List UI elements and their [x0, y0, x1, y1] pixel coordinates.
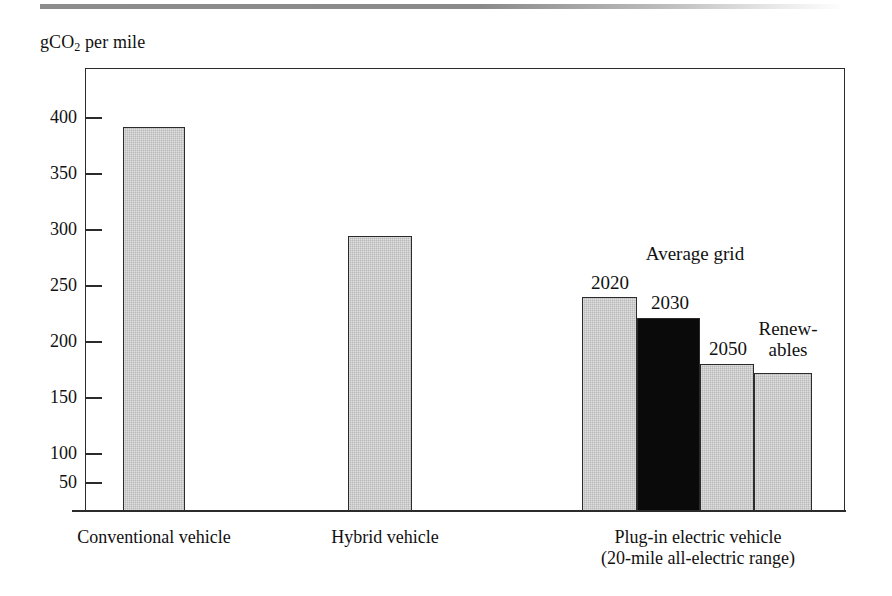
- annotation-renewables-line2: ables: [768, 339, 807, 360]
- chart-figure: gCO2 per mile 400 350 300 250 200 150 10…: [0, 0, 892, 596]
- y-tick-label-400: 400: [25, 108, 77, 126]
- x-label-hybrid-vehicle: Hybrid vehicle: [310, 527, 460, 548]
- bar-hybrid: [348, 236, 412, 511]
- annotation-average-grid: Average grid: [615, 243, 775, 264]
- bar-pev-2020: [582, 297, 637, 511]
- y-axis-title: gCO2 per mile: [40, 32, 145, 53]
- annotation-renewables: Renew- ables: [745, 318, 831, 360]
- y-tick-200: [85, 341, 102, 343]
- bar-conventional: [123, 127, 185, 511]
- x-label-conventional-vehicle: Conventional vehicle: [64, 527, 244, 548]
- y-tick-label-250: 250: [25, 276, 77, 294]
- y-tick-50: [85, 482, 102, 484]
- y-tick-150: [85, 397, 102, 399]
- annotation-renewables-line1: Renew-: [758, 318, 817, 339]
- y-tick-label-200: 200: [25, 332, 77, 350]
- y-tick-label-100: 100: [25, 444, 77, 462]
- y-tick-250: [85, 285, 102, 287]
- annotation-2030: 2030: [630, 292, 710, 313]
- y-tick-label-350: 350: [25, 164, 77, 182]
- x-label-pev-line2: (20-mile all-electric range): [578, 548, 818, 569]
- x-label-plugin-electric-vehicle: Plug-in electric vehicle (20-mile all-el…: [578, 527, 818, 569]
- page-scan-band: [40, 4, 840, 9]
- annotation-2020: 2020: [570, 272, 650, 293]
- bar-pev-2050: [700, 364, 754, 511]
- y-axis-title-subscript: 2: [74, 40, 80, 54]
- y-tick-350: [85, 173, 102, 175]
- y-tick-label-50: 50: [25, 473, 77, 491]
- y-axis-title-suffix: per mile: [80, 32, 145, 52]
- y-tick-label-300: 300: [25, 220, 77, 238]
- y-tick-label-150: 150: [25, 388, 77, 406]
- x-label-pev-line1: Plug-in electric vehicle: [615, 527, 782, 547]
- bar-pev-renewables: [754, 373, 812, 511]
- y-tick-400: [85, 117, 102, 119]
- y-axis-title-main: gCO: [40, 32, 74, 52]
- x-label-hybrid-vehicle-text: Hybrid vehicle: [331, 527, 438, 547]
- y-tick-300: [85, 229, 102, 231]
- y-tick-100: [85, 453, 102, 455]
